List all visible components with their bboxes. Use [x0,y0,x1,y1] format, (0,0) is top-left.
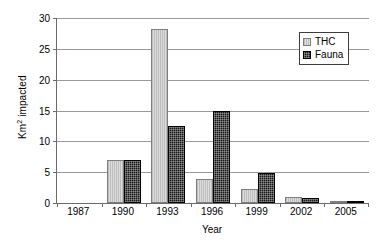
bar-thc-1999 [241,189,258,203]
bar-fauna-1996 [213,111,230,204]
y-axis-tick-label: 30 [39,13,50,24]
bar-group-1996 [191,18,236,203]
y-axis-title-tail: impacted [17,75,28,119]
legend-swatch-icon-thc [303,38,311,46]
bar-thc-1993 [151,29,168,203]
y-axis-title-exponent: 2 [16,120,23,124]
bar-thc-1996 [196,179,213,203]
y-axis-tick-label: 15 [39,105,50,116]
y-axis-tick-label: 5 [44,167,50,178]
bar-fauna-1999 [258,173,275,203]
y-axis-title: Km2 impacted [16,32,28,182]
y-axis-tick-label: 25 [39,43,50,54]
x-axis-title: Year [56,224,368,235]
x-axis-tick-label-1993: 1993 [145,206,190,217]
bar-thc-1990 [107,160,124,203]
legend-entry-fauna: Fauna [303,48,343,61]
x-axis-tick-label-1996: 1996 [190,206,235,217]
y-axis-tick-label: 0 [44,198,50,209]
x-axis-tick-label-1987: 1987 [56,206,101,217]
legend-label-thc: THC [315,35,336,48]
x-axis-tick-label-2005: 2005 [323,206,368,217]
bar-group-1999 [235,18,280,203]
y-axis-tick-label: 10 [39,136,50,147]
chart-legend: THCFauna [299,32,349,65]
y-axis-tick-label: 20 [39,74,50,85]
legend-swatch-icon-fauna [303,51,311,59]
bar-fauna-1993 [168,126,185,203]
bar-chart: Km2 impacted 051015202530 19871990199319… [0,0,384,246]
x-axis-tick-label-2002: 2002 [279,206,324,217]
x-axis-tick-labels: 1987199019931996199920022005 [56,206,368,217]
bar-group-1993 [146,18,191,203]
bar-group-1987 [57,18,102,203]
legend-label-fauna: Fauna [315,48,343,61]
x-axis-tick-mark [368,203,369,207]
x-axis-tick-label-1990: 1990 [101,206,146,217]
legend-entry-thc: THC [303,35,343,48]
bar-fauna-1990 [124,160,141,203]
bar-group-1990 [102,18,147,203]
x-axis-tick-label-1999: 1999 [234,206,279,217]
y-axis-title-base: Km [17,124,28,139]
